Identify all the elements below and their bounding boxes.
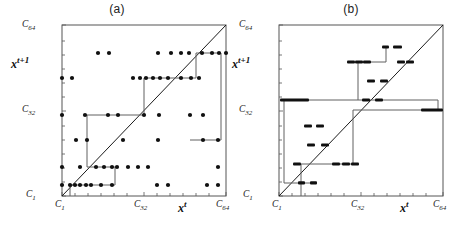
- panel-b-xtick-c1: C1: [272, 199, 282, 212]
- panel-b-ylabel: xt+1: [232, 55, 250, 72]
- panel-a-xtick-c64: C64: [216, 199, 229, 212]
- x-axis-ticks-b: [279, 192, 443, 196]
- panel-a-ytick-c32: C32: [22, 104, 35, 117]
- staircase-path-b: [284, 100, 438, 196]
- panel-b-xtick-c64: C64: [433, 199, 446, 212]
- panel-a-xtick-c1: C1: [55, 199, 65, 212]
- panel-b-xlabel: xt: [400, 199, 409, 216]
- panel-a-ylabel: xt+1: [11, 55, 29, 72]
- y-axis-ticks-b: [279, 25, 283, 196]
- panel-b: (b): [234, 0, 468, 230]
- panel-a-xlabel: xt: [178, 199, 187, 216]
- figure-container: (a): [0, 0, 468, 230]
- scatter-points-a: [60, 51, 228, 187]
- panel-b-ytick-c64: C64: [239, 19, 252, 32]
- panel-b-plot: [234, 0, 468, 230]
- panel-a: (a): [0, 0, 234, 230]
- staircase-extra-path-b: [358, 47, 386, 100]
- panel-a-ytick-c64: C64: [22, 19, 35, 32]
- panel-b-xtick-c32: C32: [351, 199, 364, 212]
- panel-b-ytick-c32: C32: [239, 104, 252, 117]
- y-axis-ticks-a: [62, 25, 66, 196]
- x-axis-ticks-a: [62, 192, 226, 196]
- staircase-path-a: [70, 53, 221, 196]
- panel-a-ytick-c1: C1: [26, 189, 36, 202]
- panel-b-ytick-c1: C1: [243, 189, 253, 202]
- panel-a-xtick-c32: C32: [134, 199, 147, 212]
